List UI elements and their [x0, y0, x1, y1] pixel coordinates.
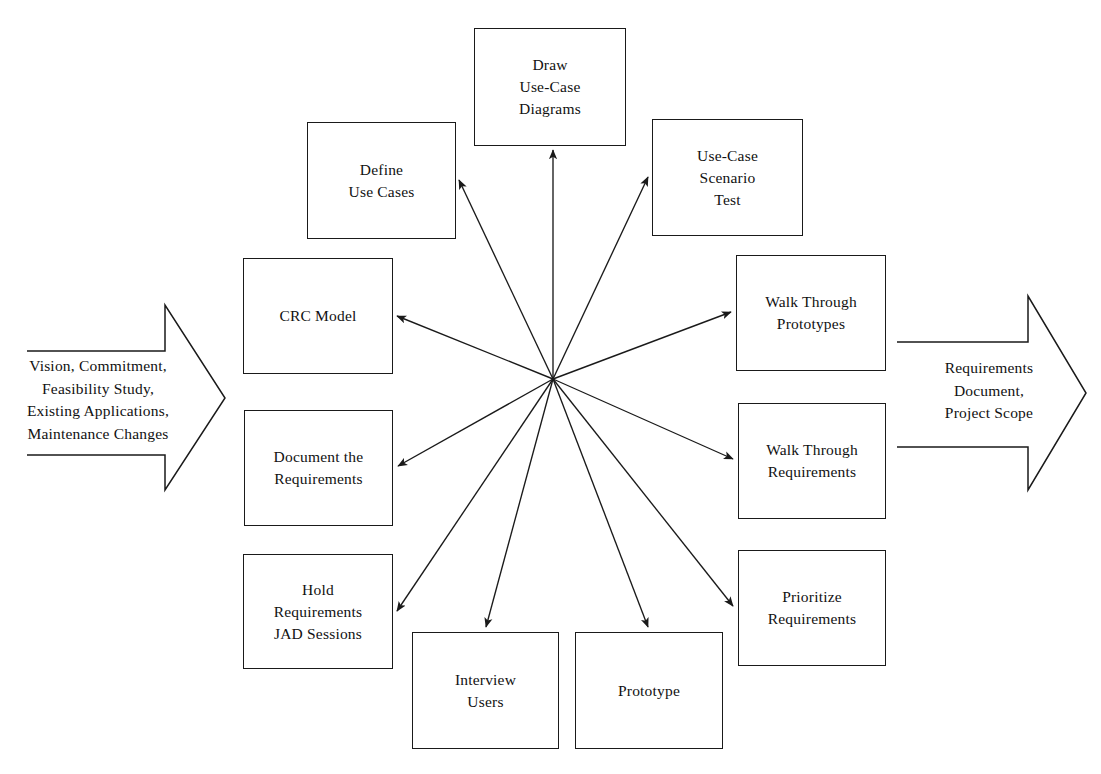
process-box-label: Prioritize Requirements [762, 586, 863, 630]
process-box-label: Define Use Cases [343, 159, 421, 203]
process-box-label: Walk Through Requirements [760, 439, 864, 483]
output-arrow-shape [897, 296, 1086, 490]
spoke-arrow-to-crc-model [397, 316, 553, 379]
process-box-interview-users[interactable]: Interview Users [412, 632, 559, 749]
process-box-define-use-cases[interactable]: Define Use Cases [307, 122, 456, 239]
process-box-label: Hold Requirements JAD Sessions [268, 579, 369, 645]
process-box-prototype[interactable]: Prototype [575, 632, 723, 749]
process-box-label: Document the Requirements [268, 446, 370, 490]
diagram-canvas: Vision, Commitment, Feasibility Study, E… [0, 0, 1101, 774]
process-box-walk-through-requirements[interactable]: Walk Through Requirements [738, 403, 886, 519]
input-arrow-shape [27, 305, 225, 490]
spoke-arrow-to-walk-through-requirements [553, 379, 733, 459]
process-box-label: Use-Case Scenario Test [691, 145, 764, 211]
process-box-draw-use-case-diagrams[interactable]: Draw Use-Case Diagrams [474, 28, 626, 146]
spoke-arrow-to-interview-users [486, 379, 553, 627]
spoke-arrow-to-prioritize-requirements [553, 379, 733, 606]
process-box-use-case-scenario-test[interactable]: Use-Case Scenario Test [652, 119, 803, 236]
spoke-arrow-to-document-the-requirements [398, 379, 553, 466]
process-box-label: CRC Model [273, 305, 362, 327]
spoke-arrow-to-hold-requirements-jad-sessions [397, 379, 553, 611]
process-box-hold-requirements-jad-sessions[interactable]: Hold Requirements JAD Sessions [243, 554, 393, 669]
process-box-prioritize-requirements[interactable]: Prioritize Requirements [738, 550, 886, 666]
spoke-arrow-to-prototype [553, 379, 648, 627]
process-box-document-the-requirements[interactable]: Document the Requirements [244, 410, 393, 526]
process-box-label: Walk Through Prototypes [759, 291, 863, 335]
process-box-crc-model[interactable]: CRC Model [243, 258, 393, 374]
process-box-walk-through-prototypes[interactable]: Walk Through Prototypes [736, 255, 886, 371]
process-box-label: Interview Users [449, 669, 522, 713]
process-box-label: Draw Use-Case Diagrams [513, 54, 587, 120]
spoke-arrow-to-define-use-cases [459, 180, 553, 379]
process-box-label: Prototype [612, 680, 686, 702]
